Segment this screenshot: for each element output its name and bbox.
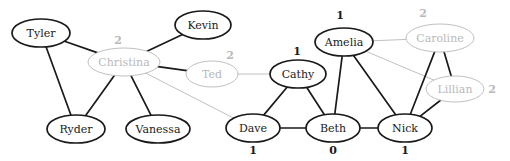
node-count-cathy: 1 xyxy=(293,45,301,58)
graph-diagram: TylerKevinChristinaRyderVanessaTedCathyA… xyxy=(0,0,510,161)
graph-node-caroline[interactable]: Caroline xyxy=(406,24,474,52)
graph-node-cathy[interactable]: Cathy xyxy=(270,60,326,88)
graph-node-lillian[interactable]: Lillian xyxy=(426,76,484,102)
node-label-lillian: Lillian xyxy=(437,83,472,96)
node-layer: TylerKevinChristinaRyderVanessaTedCathyA… xyxy=(12,11,484,143)
node-label-amelia: Amelia xyxy=(324,36,364,49)
graph-svg: TylerKevinChristinaRyderVanessaTedCathyA… xyxy=(0,0,510,161)
node-count-nick: 1 xyxy=(401,144,409,157)
graph-edge-amelia-caroline xyxy=(373,39,406,40)
node-label-vanessa: Vanessa xyxy=(135,123,181,136)
node-label-tyler: Tyler xyxy=(27,27,57,40)
graph-edge-cathy-dave xyxy=(264,87,288,115)
graph-node-vanessa[interactable]: Vanessa xyxy=(126,115,190,143)
node-label-dave: Dave xyxy=(239,122,267,135)
graph-edge-lillian-nick xyxy=(420,100,441,116)
node-label-kevin: Kevin xyxy=(187,19,218,32)
node-label-nick: Nick xyxy=(392,122,418,135)
graph-node-beth[interactable]: Beth xyxy=(306,114,360,142)
node-label-christina: Christina xyxy=(98,56,150,69)
node-count-beth: 0 xyxy=(329,144,337,157)
graph-edge-amelia-lillian xyxy=(366,51,434,80)
node-label-ryder: Ryder xyxy=(59,123,93,136)
node-count-lillian: 2 xyxy=(488,83,496,96)
graph-edge-amelia-nick xyxy=(353,55,395,115)
graph-node-tyler[interactable]: Tyler xyxy=(12,19,70,47)
graph-edge-caroline-lillian xyxy=(444,52,451,76)
graph-edge-christina-kevin xyxy=(147,35,183,52)
node-count-dave: 1 xyxy=(249,144,257,157)
graph-edge-christina-ted xyxy=(158,67,187,71)
node-count-ted: 2 xyxy=(226,49,234,62)
node-label-beth: Beth xyxy=(320,122,346,135)
node-count-christina: 2 xyxy=(114,34,122,47)
graph-edge-amelia-beth xyxy=(335,56,342,114)
node-label-ted: Ted xyxy=(202,68,222,81)
graph-edge-tyler-ryder xyxy=(46,47,71,115)
graph-edge-cathy-beth xyxy=(307,87,325,114)
graph-node-dave[interactable]: Dave xyxy=(226,114,280,142)
graph-node-ryder[interactable]: Ryder xyxy=(47,115,105,143)
graph-node-amelia[interactable]: Amelia xyxy=(315,28,373,56)
graph-node-christina[interactable]: Christina xyxy=(88,48,160,76)
node-label-cathy: Cathy xyxy=(282,68,315,81)
graph-node-ted[interactable]: Ted xyxy=(186,61,238,87)
graph-node-kevin[interactable]: Kevin xyxy=(175,11,231,39)
node-label-caroline: Caroline xyxy=(416,32,464,45)
graph-edge-tyler-christina xyxy=(64,41,97,52)
node-count-amelia: 1 xyxy=(336,9,344,22)
graph-edge-christina-vanessa xyxy=(131,76,151,116)
graph-node-nick[interactable]: Nick xyxy=(378,114,432,142)
node-count-caroline: 2 xyxy=(419,7,427,20)
graph-edge-christina-ryder xyxy=(85,75,114,115)
